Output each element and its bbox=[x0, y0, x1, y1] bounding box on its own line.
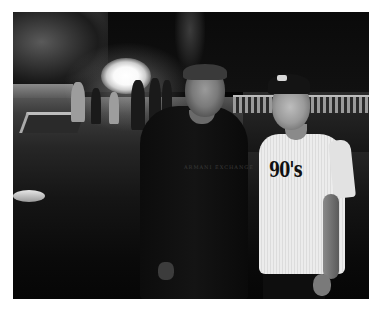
baseball-cap bbox=[268, 74, 310, 94]
man-dark-sweater bbox=[140, 106, 248, 299]
crew-member bbox=[91, 88, 101, 124]
hand bbox=[313, 274, 331, 296]
sweater-text: ARMANI EXCHANGE bbox=[184, 164, 254, 172]
shoe bbox=[13, 190, 45, 202]
crew-member bbox=[71, 82, 85, 122]
man-hair bbox=[183, 64, 227, 80]
photo: ARMANI EXCHANGE 90's bbox=[13, 12, 369, 299]
man-hand bbox=[158, 262, 174, 280]
crew-member bbox=[131, 80, 145, 130]
cap-logo-icon bbox=[277, 75, 287, 81]
crew-member bbox=[109, 92, 119, 124]
arm bbox=[323, 194, 339, 279]
tshirt-text: 90's bbox=[269, 157, 298, 181]
